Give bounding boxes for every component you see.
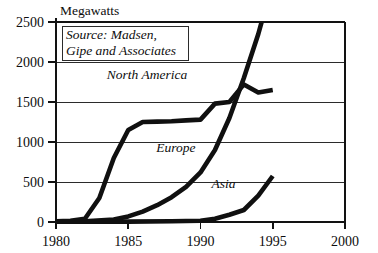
y-axis-ticks-group: 05001000150020002500 [16,15,56,230]
x-tick-label-1990: 1990 [187,234,215,249]
source-annotation: Source: Madsen, Gipe and Associates [62,26,188,60]
y-axis-unit-label: Megawatts [60,3,119,18]
series-label-north-america: North America [106,67,188,82]
y-tick-label-1000: 1000 [16,135,44,150]
y-tick-label-2000: 2000 [16,55,44,70]
y-tick-label-2500: 2500 [16,15,44,30]
y-tick-label-1500: 1500 [16,95,44,110]
wind-power-capacity-chart: 05001000150020002500 1980198519901995200… [0,0,378,253]
x-tick-label-2000: 2000 [331,234,359,249]
x-tick-label-1985: 1985 [114,234,142,249]
x-axis-ticks-group: 19801985199019952000 [42,222,359,249]
chart-canvas: 05001000150020002500 1980198519901995200… [0,0,378,253]
series-label-asia: Asia [211,176,236,191]
y-tick-label-0: 0 [37,215,44,230]
y-tick-label-500: 500 [23,175,44,190]
x-tick-label-1995: 1995 [259,234,287,249]
x-tick-label-1980: 1980 [42,234,70,249]
source-note-line-2: Gipe and Associates [66,43,176,58]
source-note-line-1: Source: Madsen, [66,27,157,42]
series-label-europe: Europe [155,140,195,155]
series-inline-labels-group: North AmericaEuropeAsia [106,67,236,192]
